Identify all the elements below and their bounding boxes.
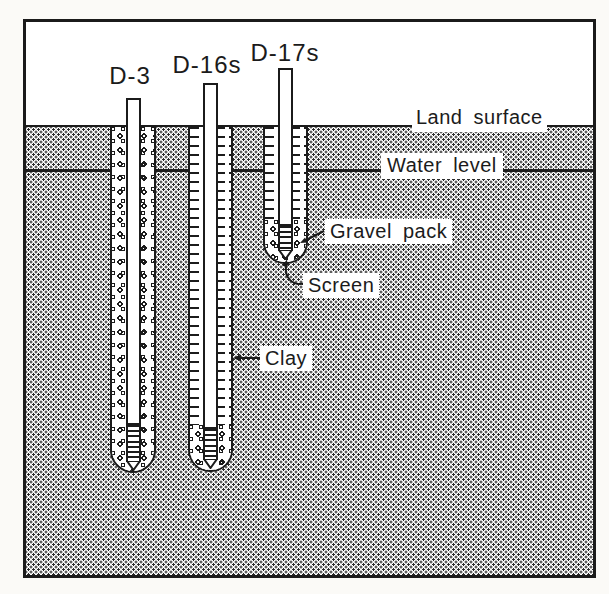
casing-tip-d17s xyxy=(278,250,293,260)
scanned-figure-page: D-3 D-16s D-17s Land surface Water level… xyxy=(0,0,609,594)
screen-d17s xyxy=(280,224,291,251)
clay-label: Clay xyxy=(260,346,312,371)
diagram-frame: D-3 D-16s D-17s Land surface Water level… xyxy=(23,19,596,578)
well-label-d17s: D-17s xyxy=(250,39,319,67)
casing-tip-d3 xyxy=(126,461,141,471)
well-label-d16s: D-16s xyxy=(172,51,241,79)
casing-d16s xyxy=(203,83,218,460)
screen-d3 xyxy=(128,423,139,462)
casing-d17s xyxy=(278,68,293,251)
screen-d16s xyxy=(205,427,216,460)
casing-tip-d16s xyxy=(203,459,218,469)
screen-label: Screen xyxy=(303,273,379,298)
gravel-pack-label: Gravel pack xyxy=(325,219,452,244)
water-level-label: Water level xyxy=(381,153,503,179)
land-surface-label: Land surface xyxy=(412,106,547,132)
casing-d3 xyxy=(126,98,141,462)
well-label-d3: D-3 xyxy=(109,62,151,90)
